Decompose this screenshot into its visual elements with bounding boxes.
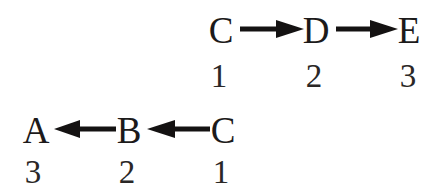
node-top-e: E <box>394 12 424 49</box>
arrow-right-c-to-d <box>240 20 304 38</box>
diagram-canvas: C D E 1 2 3 A B <box>0 0 431 190</box>
index-bottom-a: 3 <box>18 156 48 189</box>
node-bottom-a: A <box>20 112 52 149</box>
index-bottom-c: 1 <box>206 156 236 189</box>
index-bottom-b: 2 <box>112 156 142 189</box>
index-top-c: 1 <box>204 60 234 93</box>
node-bottom-b: B <box>114 112 144 149</box>
arrow-left-c-to-b <box>147 120 210 138</box>
index-top-d: 2 <box>299 60 329 93</box>
arrow-right-d-to-e <box>336 20 398 38</box>
node-top-d: D <box>301 12 331 49</box>
node-bottom-c: C <box>208 112 238 149</box>
arrow-left-b-to-a <box>54 120 116 138</box>
node-top-c: C <box>206 12 236 49</box>
index-top-e: 3 <box>393 60 423 93</box>
